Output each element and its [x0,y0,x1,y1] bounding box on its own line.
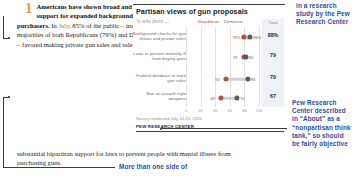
marker-democrat [235,95,240,100]
chart-bottom-rule [136,131,284,132]
annotation-mid-right: Pew Research Center described in “About”… [292,99,352,148]
total-header: Total [262,20,284,25]
total-value: 79 [262,52,284,58]
marker-republican [224,76,229,81]
chart-row: 79 82 [186,47,259,67]
value-label-republican: 79% [232,35,240,40]
legend-label-republican: Republican [198,19,220,24]
marker-republican [241,34,246,39]
total-value: 70 [262,74,284,80]
chart-row-labels: Background checks for gun shows and priv… [128,27,186,107]
annotation-top-right: in a research study by the Pew Research … [296,2,352,27]
chart-row: 48 70 [186,88,259,108]
annotation-bottom-left: More than one side of [119,163,189,171]
row-label: Laws to prevent mentally ill from buying… [128,51,186,62]
marker-republican [218,95,223,100]
paragraph-tail-line-1: substantial bipartisan support for laws … [17,149,347,158]
row-label: Background checks for gun shows and priv… [128,31,186,42]
value-label-republican: 55 [215,77,220,82]
chart-source-note: Survey conducted July 14-20, 2015. [136,116,203,121]
callout-tick-chart [162,128,287,129]
callout-dot-upper [8,37,10,39]
marker-democrat [243,54,248,59]
marker-democrat [248,34,253,39]
callout-bracket-upper [3,16,4,38]
value-label-democrat: 85 [251,77,256,82]
value-label-democrat: 88% [253,35,261,40]
x-tick: 40 [213,108,217,113]
row-label: Ban on assault-style weapons [128,91,186,102]
infographic-page: 1Americans have shown broad and consiste… [0,0,352,194]
legend-label-democrat: Democrat [224,19,243,24]
chart-subtitle: % who favor ... [136,18,169,24]
chart-legend: Republican Democrat [186,19,259,27]
row-label: Federal database to track gun sales [128,73,186,84]
value-label-republican: 79 [233,55,238,60]
paragraph-month: July [58,22,69,29]
x-tick: 60 [228,108,232,113]
x-tick: 80 [242,108,246,113]
total-value: 67 [262,93,284,99]
total-value: 88% [262,32,284,38]
value-label-republican: 48 [210,96,215,101]
value-label-democrat: 70 [240,96,245,101]
callout-tick-lower [3,167,115,168]
chart-title: Partisan views of gun proposals [136,7,248,16]
chart-row: 55 85 [186,69,259,89]
x-tick: 100 [256,108,263,113]
callout-bracket-lower [3,97,4,167]
x-tick: 0 [185,108,187,113]
x-tick: 20 [198,108,202,113]
chart-plot-area: 79% 88% 79 82 55 85 48 70 [186,27,259,107]
value-label-democrat: 82 [249,55,254,60]
chart-row: 79% 88% [186,27,259,47]
callout-dot-mid [8,96,10,98]
chart-x-axis: 0 20 40 60 80 100 [186,108,259,115]
item-number: 1 [25,2,33,14]
marker-democrat [245,76,250,81]
